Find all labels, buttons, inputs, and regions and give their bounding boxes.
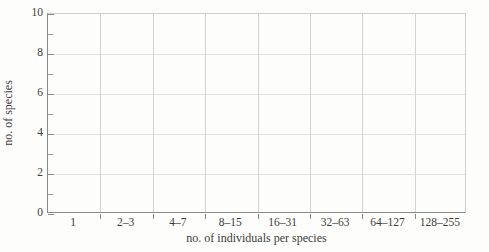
plot-area [47,13,466,213]
x-axis-tick-label: 1 [70,216,76,229]
y-axis-tick-major [48,94,54,95]
x-axis-tick-label: 2–3 [117,216,134,229]
y-axis-tick-major [48,134,54,135]
y-axis-tick-major [48,14,54,15]
y-axis-tick-label: 0 [17,207,43,219]
gridline-vertical [258,14,259,212]
y-axis-tick-labels: 0246810 [14,13,43,213]
gridline-vertical [362,14,363,212]
y-axis-tick-minor [48,194,53,195]
y-axis-tick-label: 4 [17,127,43,139]
gridline-vertical [153,14,154,212]
y-axis-tick-major [48,214,54,215]
y-axis-tick-minor [48,74,53,75]
gridline-vertical [415,14,416,212]
y-axis-tick-minor [48,34,53,35]
gridline-horizontal [48,54,465,55]
x-axis-tick-label: 64–127 [370,216,405,229]
y-axis-tick-label: 8 [17,47,43,59]
x-axis-tick-label: 4–7 [169,216,186,229]
y-axis-tick-label: 2 [17,167,43,179]
x-axis-title: no. of individuals per species [47,231,466,246]
x-axis-tick-label: 32–63 [321,216,350,229]
gridline-vertical [310,14,311,212]
x-axis-tick-label: 128–255 [420,216,460,229]
y-axis-tick-minor [48,154,53,155]
gridline-horizontal [48,134,465,135]
y-axis-tick-minor [48,114,53,115]
gridline-horizontal [48,94,465,95]
y-axis-tick-major [48,54,54,55]
x-axis-tick-labels: 12–34–78–1516–3132–6364–127128–255 [47,216,466,232]
gridline-vertical [100,14,101,212]
y-axis-tick-label: 6 [17,87,43,99]
x-axis-tick-label: 16–31 [268,216,297,229]
x-axis-tick-label: 8–15 [219,216,242,229]
chart-figure: no. of species 0246810 12–34–78–1516–313… [0,0,489,252]
y-axis-tick-major [48,174,54,175]
y-axis-tick-label: 10 [17,7,43,19]
gridline-horizontal [48,174,465,175]
gridline-vertical [205,14,206,212]
